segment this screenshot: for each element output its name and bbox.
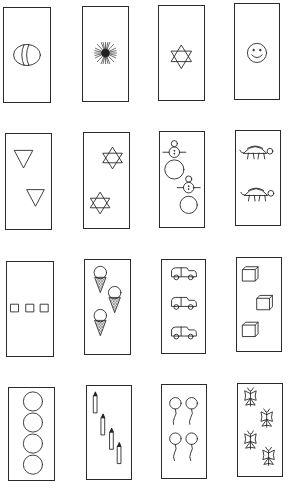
pencil-icons	[87, 386, 131, 479]
card-triangles: two triangles	[5, 133, 52, 230]
card-cubes: three cubes	[236, 257, 282, 352]
turtle-icons	[236, 131, 280, 225]
star-of-david-icons	[84, 133, 129, 228]
balloon-icons	[162, 385, 206, 478]
card-squares: three squares	[6, 261, 54, 357]
car-icons	[162, 260, 205, 353]
card-smiley: one smiley face	[234, 3, 280, 100]
card-two-stars: two stars	[83, 132, 130, 229]
card-cars: three cars	[161, 259, 206, 354]
card-snowmen: two snowmen	[159, 131, 205, 228]
snowman-icons	[160, 132, 204, 227]
card-egg: one egg	[3, 7, 51, 103]
card-star: one star	[158, 5, 205, 101]
card-circles: four circles	[8, 387, 55, 481]
card-ice-cream: three ice cream cones	[84, 259, 131, 355]
card-pencils: four pencils	[86, 385, 132, 480]
card-balloons: four balloons	[161, 384, 207, 479]
cube-icons	[237, 258, 281, 351]
card-turtles: two turtles	[235, 130, 281, 226]
star-of-david-icon	[159, 6, 204, 100]
card-starburst: one burst	[82, 6, 129, 102]
ice-cream-cone-icons	[85, 260, 130, 354]
egg-icon	[4, 8, 50, 102]
circle-icons	[9, 388, 54, 480]
card-butterflies: four butterflies	[237, 383, 283, 477]
butterfly-icons	[238, 384, 282, 476]
smiley-face-icon	[235, 4, 279, 99]
triangle-icons	[6, 134, 51, 229]
starburst-icon	[83, 7, 128, 101]
square-icons	[7, 262, 53, 356]
